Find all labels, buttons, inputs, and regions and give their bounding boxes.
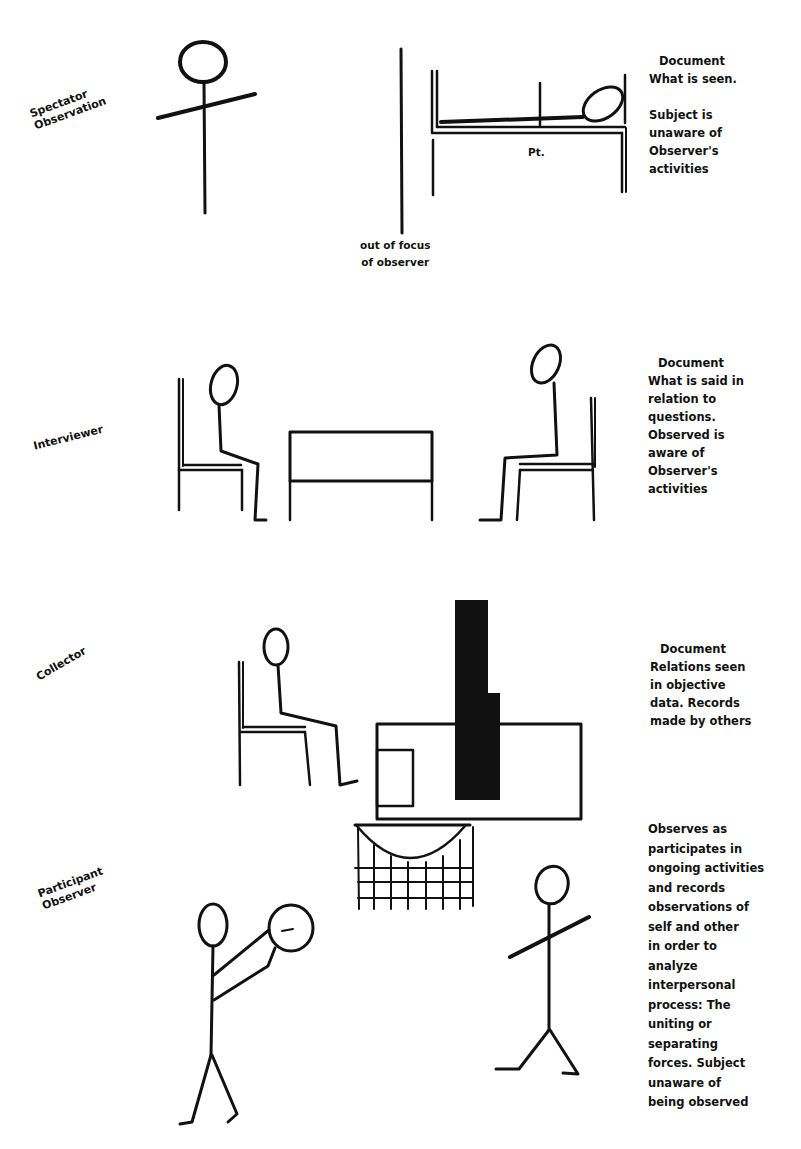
interviewee-seated-figure-right [480,340,566,520]
records-stack [455,600,500,800]
spectator-stick-figure [158,42,255,213]
description-line: activities [649,160,737,178]
description-line: uniting or [648,1015,764,1035]
basketball-hoop-net [355,825,473,909]
description-line: unaware of [649,124,737,142]
description-line: Subject is [649,106,737,124]
description-line: in objective [650,676,751,694]
out-of-focus-wall [401,49,402,233]
description-line [649,88,737,106]
interview-table [290,432,432,520]
description-collector: Document Relations seenin objectivedata.… [650,640,751,730]
description-line: What is said in [648,372,744,390]
description-line: made by others [650,712,751,730]
description-line: relation to [648,390,744,408]
collector-seated-figure [264,629,357,785]
description-line: Relations seen [650,658,751,676]
description-line: data. Records [650,694,751,712]
ball-throwing-figure [180,904,313,1124]
description-line: in order to [648,937,764,957]
description-line: interpersonal [648,976,764,996]
description-line: unaware of [648,1074,764,1094]
description-line: observations of [648,898,764,918]
description-line: forces. Subject [648,1054,764,1074]
observed-stick-figure [496,863,589,1074]
description-line: ongoing activities [648,859,764,879]
description-line: Observed is [648,426,744,444]
description-line: activities [648,480,744,498]
patient-annotation: Pt. [528,144,545,161]
description-heading: Document [649,52,737,70]
description-heading: Document [650,640,751,658]
description-participant: Observes asparticipates inongoing activi… [648,820,764,1113]
description-line: separating [648,1035,764,1055]
description-heading: Document [648,354,744,372]
description-line: participates in [648,840,764,860]
description-line: Observer's [649,142,737,160]
patient-figure [441,80,629,128]
description-line: questions. [648,408,744,426]
description-interviewer: Document What is said inrelation toquest… [648,354,744,498]
description-line: Observes as [648,820,764,840]
description-line: Observer's [648,462,744,480]
description-line: aware of [648,444,744,462]
out-of-focus-annotation: out of focus of observer [360,237,431,271]
collector-chair [239,662,310,785]
description-line: being observed [648,1093,764,1113]
description-line: What is seen. [649,70,737,88]
description-line: analyze [648,957,764,977]
description-line: process: The [648,996,764,1016]
interviewer-seated-figure-left [206,362,266,520]
description-spectator: Document What is seen. Subject isunaware… [649,52,737,178]
description-line: and records [648,879,764,899]
description-line: self and other [648,918,764,938]
